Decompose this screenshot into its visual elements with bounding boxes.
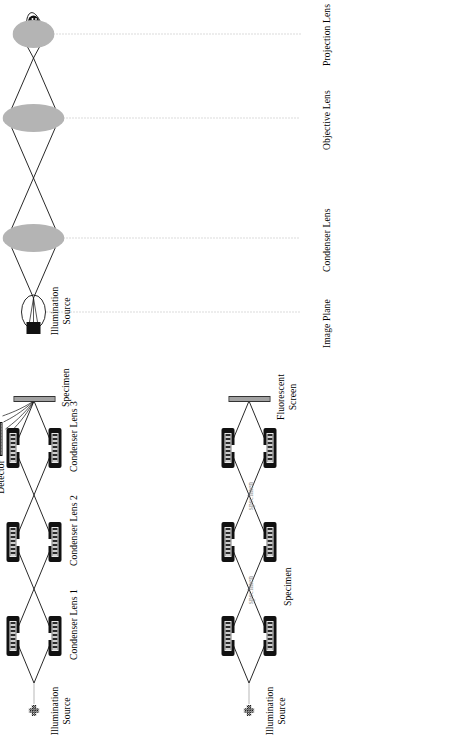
light-microscope-panel: Condenser Lens Objective Lens Projection…	[0, 0, 449, 356]
tem-lens-1-upper	[221, 616, 234, 656]
stem-condenser-lens-1-upper	[6, 616, 19, 656]
stem-condenser-lens-2-lower	[48, 522, 61, 562]
tem-specimen-label: Specimen	[281, 567, 292, 606]
signal-detector-icon	[0, 422, 2, 456]
objective-lens-label: Objective Lens	[320, 90, 331, 150]
tem-lens-3-lower	[263, 428, 276, 468]
electron-microscope-panel: Illumination Source	[0, 356, 449, 756]
tem-specimen-marker-2: specimen	[244, 482, 255, 510]
fluorescent-screen-label: Fluorescent Screen	[274, 368, 297, 426]
figure-canvas: Illumination Source	[0, 0, 449, 756]
projection-lens-label: Projection Lens	[320, 4, 331, 66]
fluorescent-screen-icon	[228, 396, 270, 402]
image-plane-label: Image Plane	[320, 299, 331, 348]
tem-lens-3-upper	[221, 428, 234, 468]
stem-condenser-lens-1-lower	[48, 616, 61, 656]
stem-condenser-lens-2-upper	[6, 522, 19, 562]
objective-glass-lens-icon	[2, 104, 64, 132]
stem-lens-1-label: Condenser Lens 1	[67, 589, 78, 660]
tem-lens-1-lower	[263, 616, 276, 656]
tem-lens-2-lower	[263, 522, 276, 562]
stem-condenser-lens-3-lower	[48, 428, 61, 468]
signal-detector-label: Signal Detector	[0, 460, 5, 520]
stem-lens-2-label: Condenser Lens 2	[67, 495, 78, 566]
tem-ray-diagram	[215, 356, 415, 756]
tem-specimen-marker-1: specimen	[244, 576, 255, 604]
condenser-glass-lens-icon	[2, 224, 64, 252]
projection-glass-lens-icon	[12, 20, 54, 48]
stem-specimen-bar-icon	[13, 396, 55, 402]
stem-ray-diagram	[0, 356, 200, 756]
light-illumination-source-label: Illumination Source	[48, 278, 71, 344]
stem-specimen-label: Specimen	[59, 368, 70, 407]
condenser-lens-label: Condenser Lens	[320, 209, 331, 272]
stem-condenser-lens-3-upper	[6, 428, 19, 468]
tem-lens-2-upper	[221, 522, 234, 562]
stem-lens-3-label: Condenser Lens 3	[67, 401, 78, 472]
